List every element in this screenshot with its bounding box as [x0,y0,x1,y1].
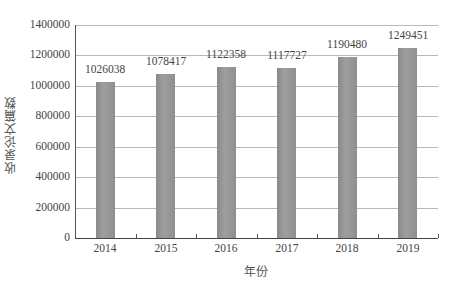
x-tick-mark [317,234,318,238]
y-axis-line [75,25,76,238]
data-label: 1026038 [70,63,140,75]
gridline [76,25,438,26]
bar-2017 [277,68,296,238]
data-label: 1249451 [373,29,443,41]
x-tick-mark [378,234,379,238]
y-tick-label: 200000 [0,201,70,213]
bar-2018 [338,57,357,238]
x-tick-label: 2017 [257,242,317,254]
data-label: 1190480 [312,38,382,50]
x-tick-label: 2019 [378,242,438,254]
gridline [76,147,438,148]
x-tick-mark [438,234,439,238]
data-label: 1117727 [252,49,322,61]
gridline [76,116,438,117]
bar-chart: 0200000400000600000800000100000012000001… [0,0,452,288]
bar-2015 [156,74,175,238]
bar-2016 [217,67,236,238]
bar-2014 [96,82,115,238]
x-tick-label: 2014 [75,242,135,254]
y-tick-label: 1000000 [0,79,70,91]
y-tick-label: 1200000 [0,48,70,60]
gridline [76,86,438,87]
y-tick-label: 0 [0,231,70,243]
bar-2019 [398,48,417,238]
x-tick-mark [136,234,137,238]
gridline [76,208,438,209]
x-axis-title: 年份 [226,262,286,279]
x-tick-label: 2016 [196,242,256,254]
x-tick-label: 2015 [136,242,196,254]
x-tick-label: 2018 [317,242,377,254]
y-tick-label: 1400000 [0,18,70,30]
data-label: 1122358 [191,48,261,60]
y-axis-title: 收录论文篇数 [2,96,22,174]
x-tick-mark [196,234,197,238]
gridline [76,177,438,178]
x-axis-line [75,238,438,239]
x-tick-mark [257,234,258,238]
